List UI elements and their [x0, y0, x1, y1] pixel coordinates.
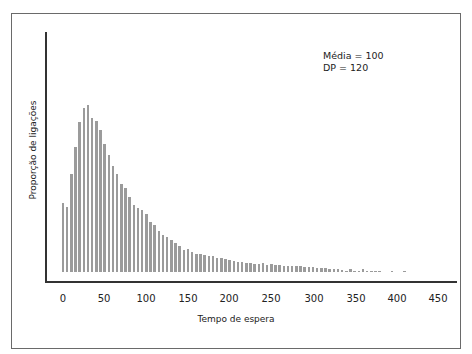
- x-tick-250: 250: [261, 293, 280, 304]
- histogram-bar: [95, 121, 97, 272]
- histogram-bar: [162, 235, 164, 272]
- x-tick-450: 450: [428, 293, 447, 304]
- histogram-bar: [62, 203, 64, 272]
- histogram-bar: [299, 266, 301, 272]
- x-tick-150: 150: [178, 293, 197, 304]
- y-axis: [45, 32, 47, 282]
- histogram-bar: [241, 262, 243, 272]
- x-tick-350: 350: [346, 293, 365, 304]
- histogram-bar: [270, 264, 272, 272]
- histogram-bar: [70, 174, 72, 272]
- histogram-bar: [366, 271, 368, 272]
- histogram-bar: [124, 188, 126, 272]
- histogram-bar: [170, 240, 172, 272]
- histogram-bar: [133, 205, 135, 272]
- x-axis-label: Tempo de espera: [0, 314, 472, 324]
- histogram-bar: [378, 271, 380, 272]
- histogram-bar: [337, 269, 339, 272]
- stats-annotation: Média = 100 DP = 120: [323, 50, 384, 74]
- histogram-bar: [158, 231, 160, 272]
- histogram-bar: [112, 166, 114, 272]
- histogram-bar: [99, 130, 101, 272]
- histogram-bar: [283, 266, 285, 272]
- histogram-bar: [287, 266, 289, 272]
- histogram-bar: [262, 263, 264, 272]
- histogram-bar: [220, 258, 222, 272]
- histogram-bar: [266, 265, 268, 272]
- histogram-bar: [120, 184, 122, 272]
- histogram-bar: [145, 214, 147, 272]
- x-tick-100: 100: [136, 293, 155, 304]
- x-axis: [45, 281, 457, 283]
- histogram-bar: [328, 269, 330, 272]
- histogram-bar: [149, 222, 151, 272]
- histogram-bar: [316, 268, 318, 272]
- histogram-bar: [208, 256, 210, 272]
- histogram-bar: [291, 266, 293, 272]
- histogram-bar: [74, 147, 76, 272]
- histogram-bar: [116, 174, 118, 272]
- histogram-bar: [358, 271, 360, 272]
- histogram-bar: [91, 118, 93, 272]
- histogram-bar: [374, 271, 376, 272]
- histogram-bar: [370, 271, 372, 272]
- x-tick-300: 300: [304, 293, 323, 304]
- histogram-bar: [166, 237, 168, 272]
- histogram-bar: [199, 254, 201, 272]
- histogram-bar: [103, 144, 105, 272]
- histogram-bar: [224, 259, 226, 272]
- histogram-bar: [391, 271, 393, 272]
- histogram-bar: [187, 249, 189, 272]
- histogram-bar: [233, 261, 235, 272]
- histogram-bar: [78, 122, 80, 272]
- histogram-bar: [183, 250, 185, 272]
- histogram-bar: [274, 265, 276, 272]
- histogram-bar: [303, 267, 305, 272]
- histogram-bar: [249, 263, 251, 272]
- mean-label: Média = 100: [323, 50, 384, 62]
- histogram-bar: [345, 271, 347, 272]
- sd-label: DP = 120: [323, 62, 384, 74]
- x-tick-200: 200: [219, 293, 238, 304]
- histogram-bar: [245, 263, 247, 272]
- histogram-bar: [228, 260, 230, 272]
- histogram-bar: [191, 252, 193, 272]
- histogram-bar: [320, 268, 322, 272]
- histogram-bar: [83, 108, 85, 272]
- histogram-bar: [195, 254, 197, 272]
- histogram-bar: [333, 269, 335, 272]
- x-tick-0: 0: [60, 293, 66, 304]
- y-axis-label: Proporção de ligações: [28, 101, 38, 200]
- histogram-bar: [174, 243, 176, 272]
- x-tick-400: 400: [387, 293, 406, 304]
- x-tick-50: 50: [98, 293, 111, 304]
- histogram-bar: [141, 210, 143, 272]
- histogram-bar: [403, 271, 405, 272]
- histogram-bar: [237, 262, 239, 272]
- histogram-bar: [295, 266, 297, 272]
- histogram-bar: [341, 270, 343, 272]
- histogram-bar: [153, 225, 155, 272]
- histogram-bar: [353, 271, 355, 272]
- histogram-bar: [278, 265, 280, 272]
- histogram-bar: [312, 267, 314, 272]
- histogram-bar: [349, 269, 351, 272]
- histogram-bar: [137, 208, 139, 272]
- histogram-bar: [258, 264, 260, 272]
- histogram-bar: [308, 267, 310, 272]
- histogram-bar: [216, 258, 218, 272]
- histogram-bar: [324, 268, 326, 272]
- histogram-bar: [253, 264, 255, 272]
- histogram-bar: [66, 207, 68, 272]
- histogram-bar: [178, 246, 180, 272]
- histogram-bar: [203, 255, 205, 272]
- histogram-bar: [87, 105, 89, 272]
- histogram-bar: [128, 197, 130, 272]
- histogram-bar: [212, 256, 214, 272]
- histogram-bar: [108, 155, 110, 272]
- histogram-bar: [362, 269, 364, 272]
